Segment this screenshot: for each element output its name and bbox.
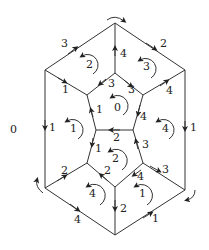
- edge-label: 3: [162, 163, 169, 176]
- edge-label: 1: [152, 212, 159, 225]
- face-label: 4: [89, 187, 96, 200]
- face-label: 1: [139, 187, 146, 200]
- face-label: 2: [112, 152, 119, 165]
- edge-label: 3: [142, 138, 149, 151]
- edge-label: 1: [96, 103, 103, 116]
- face-label: 4: [162, 122, 169, 135]
- edge-label: 1: [62, 83, 69, 96]
- face-label: 0: [114, 101, 121, 114]
- edge-label: 3: [61, 37, 68, 50]
- face-label: 3: [143, 60, 150, 73]
- edge-label: 2: [160, 37, 167, 50]
- edge-label: 4: [166, 84, 173, 97]
- edge-label: 1: [190, 121, 197, 134]
- edge-label: 4: [120, 47, 127, 60]
- edge-label: 1: [95, 142, 102, 155]
- edge-label: 2: [104, 164, 111, 177]
- face-label: 2: [86, 58, 93, 71]
- edge-label: 3: [108, 77, 115, 90]
- edge-label: 4: [140, 110, 147, 123]
- edge-label: 2: [120, 202, 127, 215]
- edge-label: 4: [137, 170, 144, 183]
- edge-label: 2: [61, 164, 68, 177]
- edge-label: 3: [128, 83, 135, 96]
- edge-label: 1: [49, 121, 56, 134]
- face-labels: 2 3 0 1 4 2 4 1: [70, 58, 169, 200]
- edge-label: 2: [113, 131, 120, 144]
- face-label: 1: [70, 122, 77, 135]
- graph-diagram: 0 3 2 4 1 4 3 3 1 4 1 1 2 1 3 2 3 2 4 2 …: [0, 0, 209, 250]
- edge-label: 4: [74, 213, 81, 226]
- outer-face-label: 0: [10, 123, 17, 136]
